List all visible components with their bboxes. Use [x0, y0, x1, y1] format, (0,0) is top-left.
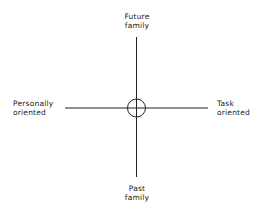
label-right-line2: oriented — [217, 108, 250, 117]
label-bottom: Past family — [116, 184, 158, 202]
label-right-line1: Task — [217, 99, 250, 108]
label-left-line1: Personally — [13, 99, 53, 108]
label-bottom-line2: family — [116, 193, 158, 202]
label-left-line2: oriented — [13, 108, 53, 117]
label-left: Personally oriented — [13, 99, 53, 117]
label-top-line1: Future — [116, 12, 158, 21]
label-top: Future family — [116, 12, 158, 30]
label-right: Task oriented — [217, 99, 250, 117]
label-bottom-line1: Past — [116, 184, 158, 193]
label-top-line2: family — [116, 21, 158, 30]
